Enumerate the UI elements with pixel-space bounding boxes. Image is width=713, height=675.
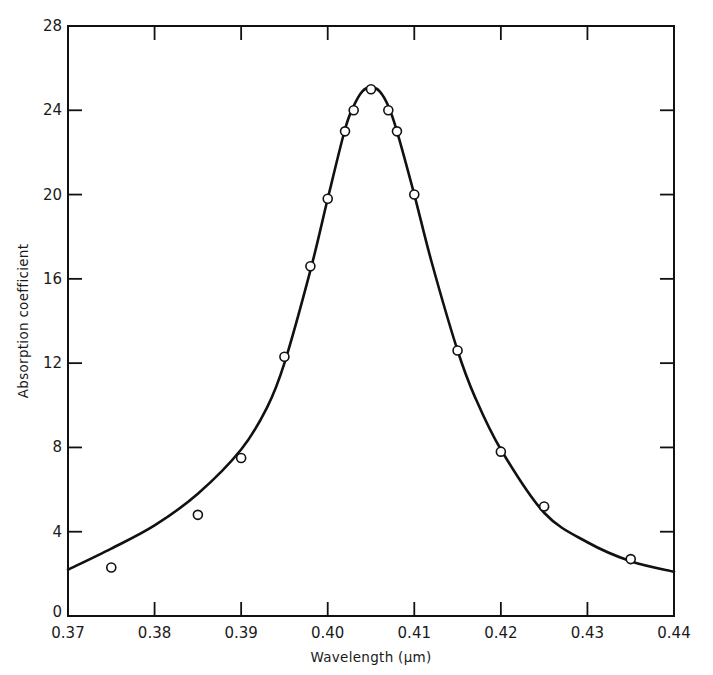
y-tick-label: 12 bbox=[43, 354, 62, 372]
data-points bbox=[107, 85, 635, 572]
x-tick-label: 0.43 bbox=[571, 624, 604, 642]
fitted-curve bbox=[68, 87, 674, 572]
data-point bbox=[107, 563, 116, 572]
data-point bbox=[540, 502, 549, 511]
data-point bbox=[453, 346, 462, 355]
x-tick-label: 0.39 bbox=[224, 624, 257, 642]
y-tick-label: 20 bbox=[43, 186, 62, 204]
x-tick-labels: 0.370.380.390.400.410.420.430.44 bbox=[51, 624, 690, 642]
data-point bbox=[410, 190, 419, 199]
plot-border bbox=[68, 26, 674, 616]
data-point bbox=[392, 127, 401, 136]
x-tick-label: 0.37 bbox=[51, 624, 84, 642]
data-point bbox=[341, 127, 350, 136]
data-point bbox=[306, 262, 315, 271]
data-point bbox=[349, 106, 358, 115]
data-point bbox=[237, 453, 246, 462]
data-point bbox=[626, 555, 635, 564]
x-axis-label: Wavelength (μm) bbox=[310, 649, 431, 665]
x-tick-label: 0.42 bbox=[484, 624, 517, 642]
data-point bbox=[496, 447, 505, 456]
x-tick-label: 0.41 bbox=[398, 624, 431, 642]
y-tick-labels: 0481216202428 bbox=[43, 17, 62, 621]
data-point bbox=[323, 194, 332, 203]
y-tick-label: 0 bbox=[52, 603, 62, 621]
y-tick-label: 16 bbox=[43, 270, 62, 288]
y-tick-label: 4 bbox=[52, 523, 62, 541]
y-tick-label: 28 bbox=[43, 17, 62, 35]
y-tick-label: 24 bbox=[43, 101, 62, 119]
y-axis-label: Absorption coefficient bbox=[15, 244, 31, 399]
data-point bbox=[367, 85, 376, 94]
data-point bbox=[280, 352, 289, 361]
plot-frame bbox=[68, 26, 674, 616]
data-point bbox=[193, 510, 202, 519]
axis-ticks bbox=[68, 26, 674, 616]
x-tick-label: 0.44 bbox=[657, 624, 690, 642]
y-tick-label: 8 bbox=[52, 438, 62, 456]
x-tick-label: 0.38 bbox=[138, 624, 171, 642]
absorption-chart: 0.370.380.390.400.410.420.430.44 0481216… bbox=[0, 0, 713, 675]
x-tick-label: 0.40 bbox=[311, 624, 344, 642]
data-point bbox=[384, 106, 393, 115]
